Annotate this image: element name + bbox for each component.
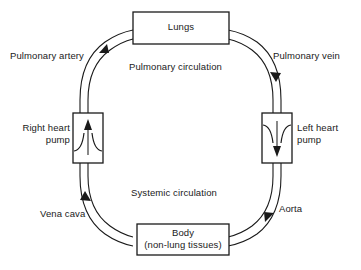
body-label: Body (non-lung tissues) [137, 227, 229, 250]
circulatory-diagram: Lungs Body (non-lung tissues) Right hear… [0, 0, 361, 270]
right-heart-pump-label: Right heart pump [8, 122, 70, 145]
aorta-vessel [228, 163, 281, 246]
pulmonary-vein-label: Pulmonary vein [273, 50, 340, 62]
left-heart-pump-label: Left heart pump [297, 122, 357, 145]
lungs-label: Lungs [133, 21, 229, 33]
pulmonary-vein-vessel [228, 30, 281, 113]
left-heart-pump-label-line1: Left heart [297, 122, 357, 134]
vena-cava-vessel [80, 163, 133, 246]
right-heart-pump-box [73, 113, 103, 163]
vena-cava-label: Vena cava [40, 208, 85, 220]
left-heart-pump-box [262, 113, 292, 163]
left-heart-pump-label-line2: pump [297, 134, 357, 146]
pulmonary-artery-vessel [80, 30, 133, 113]
body-label-line1: Body [137, 227, 229, 239]
aorta-arrowhead [264, 212, 274, 222]
body-label-line2: (non-lung tissues) [137, 239, 229, 251]
pulmonary-circulation-label: Pulmonary circulation [129, 61, 222, 73]
aorta-label: Aorta [279, 203, 302, 215]
pulmonary-artery-label: Pulmonary artery [10, 50, 84, 62]
systemic-circulation-label: Systemic circulation [131, 187, 217, 199]
right-heart-pump-label-line2: pump [8, 134, 70, 146]
right-heart-pump-label-line1: Right heart [8, 122, 70, 134]
